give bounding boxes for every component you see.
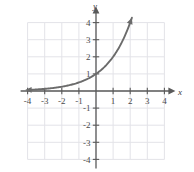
curve-path [28,18,132,90]
y-tick-label: -3 [83,138,91,148]
y-tick-label: -2 [83,120,91,130]
x-tick-label: 1 [111,96,116,106]
x-axis-label: x [177,87,182,97]
curve-arrow-end [127,18,133,25]
x-tick-label: -2 [58,96,66,106]
x-tick-label: -4 [24,96,32,106]
y-tick-label: -1 [83,103,91,113]
x-tick-label: 3 [145,96,150,106]
axes [21,7,176,169]
coordinate-plane-svg: -4-3-2-112344321-1-2-3-4 x y [0,0,194,172]
x-tick-label: -3 [41,96,49,106]
y-tick-label: 3 [86,35,91,45]
x-tick-label: 4 [162,96,167,106]
curve-arrow-start [25,87,32,93]
y-tick-label: 4 [86,18,91,28]
y-tick-label: -4 [83,155,91,165]
y-tick-label: 2 [86,52,91,62]
y-axis-label: y [92,1,97,11]
x-tick-label: -1 [75,96,83,106]
x-tick-label: 2 [128,96,133,106]
graph-canvas: -4-3-2-112344321-1-2-3-4 x y [0,0,194,172]
